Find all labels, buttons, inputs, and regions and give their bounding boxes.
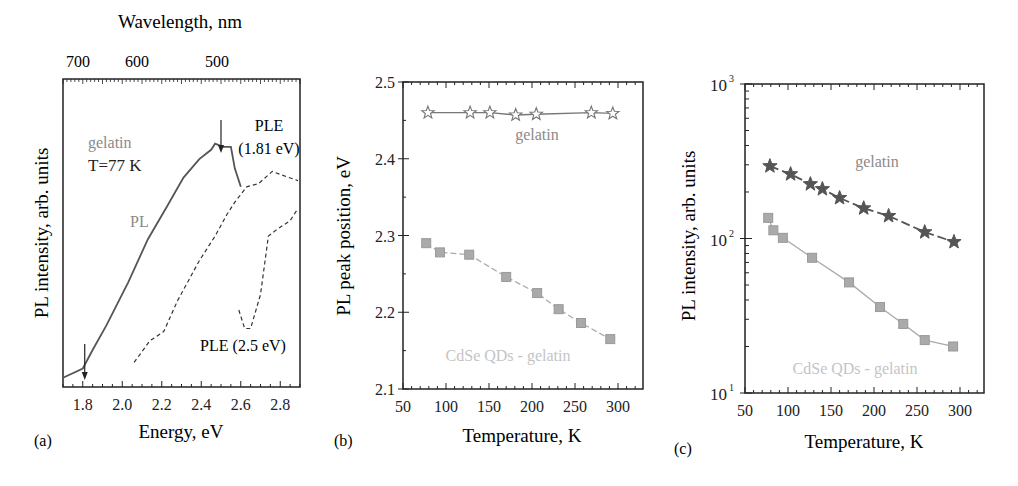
open-star-marker <box>422 106 434 118</box>
square-marker <box>769 226 778 235</box>
y-tick-label: 10 <box>710 231 727 250</box>
x-tick-label: 300 <box>606 398 630 415</box>
square-marker <box>577 318 586 327</box>
panel-b-annotation-cdse: CdSe QDs - gelatin <box>446 347 571 365</box>
x-tick-label: 2.2 <box>152 396 172 413</box>
filled-star-marker <box>803 177 817 191</box>
panel-c-annotation-cdse: CdSe QDs - gelatin <box>793 360 918 378</box>
panel-a-annotation-pl: PL <box>130 213 149 230</box>
x-tick-label: 300 <box>948 402 972 419</box>
y-tick-exponent: 3 <box>729 73 734 84</box>
x-tick-label: 100 <box>776 402 800 419</box>
filled-star-marker <box>857 201 871 215</box>
panel-b-xlabel: Temperature, K <box>463 425 582 446</box>
filled-star-marker <box>918 225 932 239</box>
y-tick-label: 10 <box>710 385 727 404</box>
square-marker <box>502 272 511 281</box>
panel-a-ylabel: PL intensity, arb. units <box>31 148 52 319</box>
panel-b-peak-position: 501001502002503002.12.22.32.42.5 Tempera… <box>333 74 643 450</box>
panel-c-ylabel: PL intensity, arb. units <box>678 151 699 322</box>
square-marker <box>422 239 431 248</box>
x-tick-label: 50 <box>737 402 753 419</box>
y-tick-label: 2.1 <box>375 381 395 398</box>
panel-a-label: (a) <box>34 432 52 450</box>
square-marker <box>876 303 885 312</box>
square-marker <box>533 289 542 298</box>
y-tick-label: 10 <box>710 76 727 95</box>
panel-c-pl-intensity: 50100150200250300101102103 Temperature, … <box>674 73 984 458</box>
square-marker <box>554 305 563 314</box>
y-tick-label: 2.3 <box>375 228 395 245</box>
x-tick-label: 150 <box>477 398 501 415</box>
panel-b-ylabel: PL peak position, eV <box>333 156 354 316</box>
series-ple-1-81-ev- <box>134 171 298 362</box>
panel-c-annotation-gelatin: gelatin <box>855 153 899 171</box>
figure: Wavelength, nm 700 600 500 1.82.02.22.42… <box>0 0 1018 486</box>
panel-a-top-tick-600: 600 <box>125 53 149 70</box>
y-tick-exponent: 1 <box>729 382 734 393</box>
square-marker <box>764 213 773 222</box>
x-tick-label: 2.8 <box>270 396 290 413</box>
open-star-marker <box>530 108 542 120</box>
x-tick-label: 150 <box>819 402 843 419</box>
panel-a-top-axis-label: Wavelength, nm <box>118 11 242 32</box>
panel-c-series <box>763 159 961 351</box>
x-tick-label: 1.8 <box>73 396 93 413</box>
square-marker <box>899 319 908 328</box>
y-tick-label: 2.4 <box>375 151 395 168</box>
square-marker <box>778 233 787 242</box>
x-tick-label: 2.4 <box>191 396 211 413</box>
y-tick-exponent: 2 <box>729 228 734 239</box>
panel-a-annotation-gelatin: gelatin <box>88 134 132 152</box>
filled-star-marker <box>947 234 961 248</box>
panel-c-xlabel: Temperature, K <box>805 431 924 452</box>
y-tick-label: 2.2 <box>375 304 395 321</box>
filled-star-marker <box>763 159 777 173</box>
open-star-marker <box>585 106 597 118</box>
x-tick-label: 250 <box>563 398 587 415</box>
panel-b-annotation-gelatin: gelatin <box>515 126 559 144</box>
panel-a-annotation-ple1-line1: PLE <box>255 117 283 134</box>
square-marker <box>920 336 929 345</box>
panel-a-energy-spectrum: Wavelength, nm 700 600 500 1.82.02.22.42… <box>31 11 300 450</box>
x-tick-label: 100 <box>434 398 458 415</box>
panel-a-top-tick-500: 500 <box>205 53 229 70</box>
panel-a-annotation-ple2: PLE (2.5 eV) <box>200 337 286 355</box>
panel-a-annotation-temperature: T=77 K <box>88 156 142 175</box>
square-marker <box>465 250 474 259</box>
square-marker <box>845 278 854 287</box>
panel-c-label: (c) <box>674 440 692 458</box>
x-tick-label: 250 <box>905 402 929 419</box>
square-marker <box>808 253 817 262</box>
filled-star-marker <box>815 182 829 196</box>
series-cdse-line <box>768 218 953 347</box>
open-star-marker <box>510 109 522 121</box>
square-marker <box>949 342 958 351</box>
panel-b-label: (b) <box>334 432 353 450</box>
filled-star-marker <box>783 167 797 181</box>
panel-a-xlabel: Energy, eV <box>139 421 224 442</box>
square-marker <box>435 248 444 257</box>
x-tick-label: 2.0 <box>112 396 132 413</box>
x-tick-label: 200 <box>520 398 544 415</box>
square-marker <box>606 335 615 344</box>
y-tick-label: 2.5 <box>375 74 395 91</box>
open-star-marker <box>484 106 496 118</box>
x-tick-label: 2.6 <box>231 396 251 413</box>
filled-star-marker <box>882 208 896 222</box>
panel-a-x-tick-labels: 1.82.02.22.42.62.8 <box>73 396 291 413</box>
series-ple-2-5-ev- <box>239 208 298 328</box>
x-tick-label: 50 <box>395 398 411 415</box>
x-tick-label: 200 <box>862 402 886 419</box>
open-star-marker <box>464 106 476 118</box>
panel-a-annotation-ple1-line2: (1.81 eV) <box>238 140 299 158</box>
panel-a-top-tick-700: 700 <box>66 53 90 70</box>
open-star-marker <box>607 107 619 119</box>
filled-star-marker <box>833 191 847 205</box>
